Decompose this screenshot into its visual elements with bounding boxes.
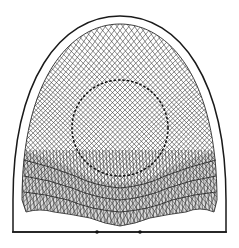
mesh-region (0, 20, 239, 240)
mesh-diagram (0, 0, 239, 248)
base-marker-left (95, 230, 99, 234)
base-marker-right (138, 230, 142, 234)
